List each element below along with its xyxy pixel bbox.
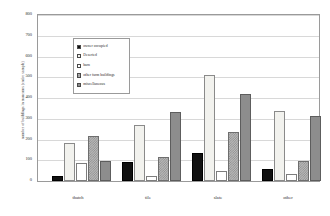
bar-thatch-other-farm-buildings[interactable] xyxy=(88,136,99,181)
y-tick-label: 200 xyxy=(8,137,32,141)
legend-swatch-icon xyxy=(77,73,81,77)
bar-group-tile xyxy=(122,15,186,181)
bar-tile-miscellaneous[interactable] xyxy=(170,112,181,182)
x-tick-label-other: other xyxy=(263,196,313,201)
bar-slate-barn[interactable] xyxy=(216,171,227,181)
legend-label: owner occupied xyxy=(83,45,107,49)
y-tick-label: 500 xyxy=(8,74,32,78)
bar-tile-other-farm-buildings[interactable] xyxy=(158,157,169,181)
bar-slate-other-farm-buildings[interactable] xyxy=(228,132,239,181)
legend-label: other farm buildings xyxy=(83,74,114,78)
bar-group-other xyxy=(262,15,326,181)
legend-item-owner-occupied[interactable]: owner occupied xyxy=(77,42,126,52)
legend-item-miscellaneous[interactable]: miscellaneous xyxy=(77,80,126,90)
legend-label: miscellaneous xyxy=(83,83,105,87)
legend-swatch-icon xyxy=(77,54,81,58)
x-tick-label-thatch: thatch xyxy=(53,196,103,201)
bar-thatch-owner-occupied[interactable] xyxy=(52,176,63,181)
y-tick-label: 300 xyxy=(8,116,32,120)
legend-swatch-icon xyxy=(77,45,81,49)
bar-slate-deserted[interactable] xyxy=(204,75,215,181)
legend-item-barn[interactable]: barn xyxy=(77,61,126,71)
bar-other-miscellaneous[interactable] xyxy=(310,116,321,181)
bar-chart: 800 700 600 500 400 300 200 100 0 number… xyxy=(0,0,330,216)
legend-swatch-icon xyxy=(77,83,81,87)
legend-item-other-farm-buildings[interactable]: other farm buildings xyxy=(77,71,126,81)
x-tick-label-slate: slate xyxy=(193,196,243,201)
bar-tile-deserted[interactable] xyxy=(134,125,145,181)
bar-thatch-miscellaneous[interactable] xyxy=(100,161,111,181)
bar-other-deserted[interactable] xyxy=(274,111,285,181)
bar-thatch-barn[interactable] xyxy=(76,163,87,181)
x-tick-label-tile: tile xyxy=(123,196,173,201)
bar-other-owner-occupied[interactable] xyxy=(262,169,273,181)
y-tick-label: 100 xyxy=(8,157,32,161)
legend-label: Deserted xyxy=(83,54,97,58)
y-tick-label: 0 xyxy=(8,178,32,182)
legend-label: barn xyxy=(83,64,90,68)
y-tick-label: 400 xyxy=(8,95,32,99)
bar-slate-owner-occupied[interactable] xyxy=(192,153,203,181)
legend-swatch-icon xyxy=(77,64,81,68)
bar-thatch-deserted[interactable] xyxy=(64,143,75,181)
legend: owner occupied Deserted barn other farm … xyxy=(73,38,130,94)
bar-other-other-farm-buildings[interactable] xyxy=(298,161,309,181)
bar-other-barn[interactable] xyxy=(286,174,297,181)
y-tick-label: 600 xyxy=(8,54,32,58)
bar-tile-owner-occupied[interactable] xyxy=(122,162,133,181)
y-axis-title: number of buildings in museums (entire s… xyxy=(21,25,25,175)
bar-slate-miscellaneous[interactable] xyxy=(240,94,251,181)
bar-group-slate xyxy=(192,15,256,181)
y-tick-label: 800 xyxy=(8,12,32,16)
y-tick-label: 700 xyxy=(8,33,32,37)
legend-item-deserted[interactable]: Deserted xyxy=(77,52,126,62)
bar-tile-barn[interactable] xyxy=(146,176,157,181)
